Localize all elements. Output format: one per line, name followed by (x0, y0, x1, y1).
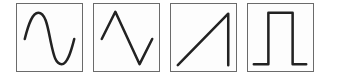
sawtooth-wave-icon (171, 4, 236, 71)
triangle-wave-button[interactable]: Triangle wave (93, 3, 160, 72)
triangle-wave-icon (94, 4, 159, 71)
sine-wave-icon (17, 4, 82, 71)
sawtooth-wave-button[interactable]: Sawtooth wave (170, 3, 237, 72)
square-wave-icon (248, 4, 313, 71)
sine-wave-button[interactable]: Sine wave (16, 3, 83, 72)
square-wave-button[interactable]: Square wave (247, 3, 314, 72)
waveform-selector: Sine wave Triangle wave Sawtooth wave Sq… (16, 3, 314, 72)
